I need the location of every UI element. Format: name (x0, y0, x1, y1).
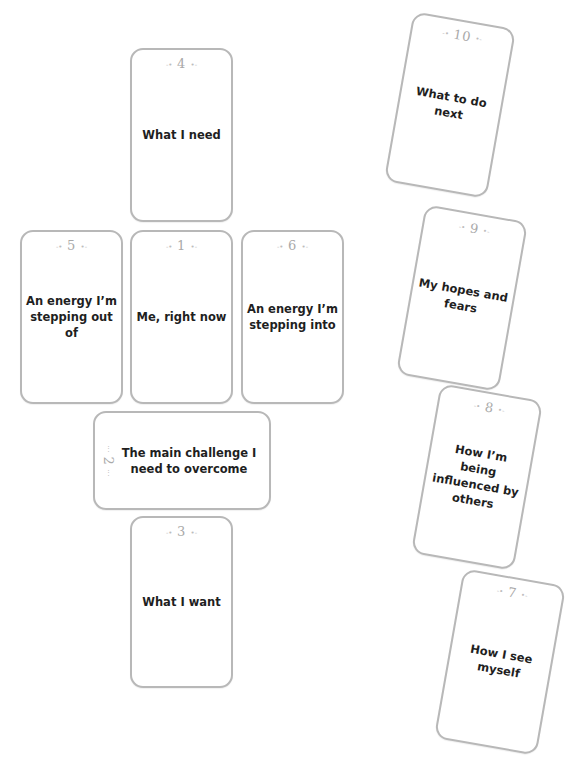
card-label: Me, right now (136, 309, 227, 325)
card-3[interactable]: -• 3 •- What I want (130, 516, 233, 688)
card-label: What I need (136, 127, 227, 143)
card-number-text: 9 (469, 220, 480, 236)
ornament-left-icon: -• (166, 243, 173, 251)
card-number: -• 5 •- (22, 238, 121, 253)
card-label: The main challenge I need to overcome (117, 445, 261, 477)
card-number-text: 7 (507, 584, 518, 600)
card-number-text: 1 (177, 238, 186, 253)
card-number: -• 3 •- (132, 524, 231, 539)
card-label: An energy I’m stepping into (247, 301, 338, 333)
card-number-text: 6 (288, 238, 297, 253)
card-number-text: 10 (452, 27, 472, 45)
card-label: An energy I’m stepping out of (26, 293, 117, 341)
card-6[interactable]: -• 6 •- An energy I’m stepping into (241, 230, 344, 404)
card-5[interactable]: -• 5 •- An energy I’m stepping out of (20, 230, 123, 404)
card-number: -• 4 •- (132, 56, 231, 71)
ornament-right-icon: •- (520, 591, 528, 600)
card-label: How I’m being influenced by others (426, 437, 528, 516)
ornament-bottom-icon: ⋮ (101, 468, 115, 477)
ornament-right-icon: •- (497, 406, 505, 415)
card-number: -• 1 •- (132, 238, 231, 253)
card-number: ⋮ 2 ⋮ (101, 444, 115, 477)
card-number-text: 8 (484, 399, 495, 415)
card-number: -• 9 •- (424, 213, 525, 245)
card-10[interactable]: -• 10 •- What to do next (384, 11, 516, 198)
ornament-left-icon: -• (458, 223, 466, 232)
card-1[interactable]: -• 1 •- Me, right now (130, 230, 233, 404)
ornament-right-icon: •- (191, 61, 198, 69)
card-7[interactable]: -• 7 •- How I see myself (434, 568, 566, 755)
card-label: How I see myself (452, 638, 548, 685)
ornament-left-icon: -• (496, 587, 504, 596)
card-number: -• 10 •- (412, 20, 513, 52)
ornament-top-icon: ⋮ (101, 444, 115, 453)
ornament-left-icon: -• (56, 243, 63, 251)
card-8[interactable]: -• 8 •- How I’m being influenced by othe… (411, 383, 543, 570)
ornament-right-icon: •- (191, 529, 198, 537)
card-number: -• 6 •- (243, 238, 342, 253)
card-number: -• 7 •- (462, 577, 563, 609)
card-number: -• 8 •- (439, 392, 540, 424)
ornament-right-icon: •- (482, 227, 490, 236)
card-label: What to do next (402, 81, 498, 128)
ornament-right-icon: •- (191, 243, 198, 251)
card-9[interactable]: -• 9 •- My hopes and fears (396, 204, 528, 391)
ornament-right-icon: •- (302, 243, 309, 251)
card-label: My hopes and fears (414, 274, 510, 321)
card-number-text: 2 (104, 454, 113, 468)
ornament-right-icon: •- (475, 35, 483, 44)
ornament-left-icon: -• (166, 61, 173, 69)
ornament-left-icon: -• (277, 243, 284, 251)
ornament-right-icon: •- (81, 243, 88, 251)
card-number-text: 4 (177, 56, 186, 71)
card-number-text: 5 (67, 238, 76, 253)
card-4[interactable]: -• 4 •- What I need (130, 48, 233, 222)
ornament-left-icon: -• (442, 29, 450, 38)
ornament-left-icon: -• (166, 529, 173, 537)
ornament-left-icon: -• (473, 402, 481, 411)
card-label: What I want (136, 594, 227, 610)
card-number-text: 3 (177, 524, 186, 539)
card-2[interactable]: ⋮ 2 ⋮ The main challenge I need to overc… (93, 411, 271, 510)
